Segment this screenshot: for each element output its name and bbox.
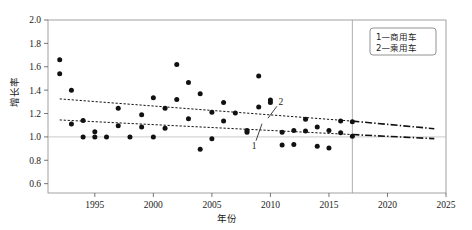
- y-tick-label: 1.0: [29, 132, 41, 142]
- data-point: [57, 57, 62, 62]
- leader-line-1: [256, 124, 262, 141]
- x-tick-label: 1995: [85, 200, 104, 210]
- trendline-commercial-fit: [60, 120, 353, 135]
- data-point: [209, 110, 214, 115]
- data-point: [303, 129, 308, 134]
- data-point: [221, 100, 226, 105]
- x-tick-label: 2015: [319, 200, 338, 210]
- data-point: [280, 130, 285, 135]
- data-point: [151, 95, 156, 100]
- data-point: [81, 118, 86, 123]
- legend-item-2: 2—乘用车: [376, 43, 417, 53]
- x-tick-label: 2020: [378, 200, 397, 210]
- data-point: [186, 80, 191, 85]
- data-point: [116, 106, 121, 111]
- data-point: [139, 124, 144, 129]
- y-tick-label: 0.8: [29, 156, 41, 166]
- curve-label-1: 1: [252, 141, 257, 151]
- data-point: [338, 130, 343, 135]
- data-point: [92, 129, 97, 134]
- data-point: [69, 88, 74, 93]
- data-point: [256, 74, 261, 79]
- data-point: [151, 134, 156, 139]
- y-tick-label: 0.6: [29, 179, 41, 189]
- y-tick-label: 1.6: [29, 62, 41, 72]
- y-tick-label: 1.4: [29, 86, 41, 96]
- data-point: [303, 117, 308, 122]
- data-point: [221, 119, 226, 124]
- leader-line-2: [268, 106, 277, 118]
- y-axis-title: 增长率: [9, 77, 20, 107]
- data-point: [198, 147, 203, 152]
- curve-label-2: 2: [279, 97, 284, 107]
- data-point: [92, 134, 97, 139]
- data-point: [163, 126, 168, 131]
- data-point: [291, 142, 296, 147]
- trendline-passenger-forecast: [352, 121, 434, 129]
- data-point: [139, 112, 144, 117]
- data-point: [326, 146, 331, 151]
- series-commercial: [69, 116, 355, 151]
- chart-container: 0.60.81.01.21.41.61.82.01995200020052010…: [0, 0, 472, 230]
- data-point: [280, 143, 285, 148]
- y-tick-label: 1.2: [29, 109, 41, 119]
- data-point: [163, 106, 168, 111]
- y-tick-label: 1.8: [29, 39, 41, 49]
- data-point: [127, 134, 132, 139]
- data-point: [315, 144, 320, 149]
- data-point: [104, 134, 109, 139]
- data-point: [256, 105, 261, 110]
- data-point: [350, 119, 355, 124]
- x-axis-title: 年份: [217, 213, 237, 224]
- data-point: [186, 116, 191, 121]
- data-point: [291, 128, 296, 133]
- data-point: [198, 91, 203, 96]
- data-point: [116, 123, 121, 128]
- data-point: [326, 128, 331, 133]
- data-point: [69, 122, 74, 127]
- data-point: [174, 62, 179, 67]
- data-point: [245, 130, 250, 135]
- data-point: [315, 124, 320, 129]
- x-tick-label: 2010: [261, 200, 280, 210]
- data-point: [338, 119, 343, 124]
- trendline-passenger-fit: [60, 99, 353, 121]
- x-tick-label: 2005: [202, 200, 221, 210]
- data-point: [57, 71, 62, 76]
- series-passenger: [57, 57, 355, 124]
- data-point: [81, 134, 86, 139]
- x-tick-label: 2000: [144, 200, 163, 210]
- data-point: [350, 134, 355, 139]
- data-point: [268, 100, 273, 105]
- y-tick-label: 2.0: [29, 15, 41, 25]
- data-point: [209, 136, 214, 141]
- x-tick-label: 2025: [437, 200, 456, 210]
- data-point: [233, 110, 238, 115]
- scatter-chart: 0.60.81.01.21.41.61.82.01995200020052010…: [0, 0, 472, 230]
- legend-item-1: 1—商用车: [376, 32, 417, 42]
- data-point: [174, 97, 179, 102]
